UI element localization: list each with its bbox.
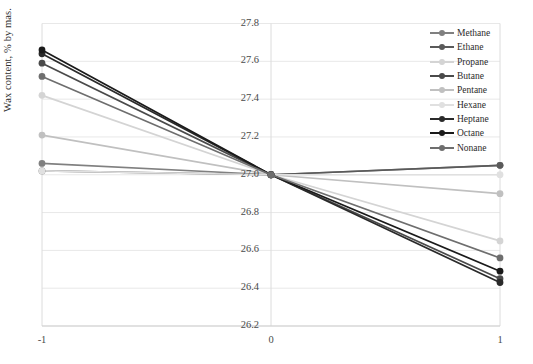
y-tick-label: 26.2 <box>225 319 259 330</box>
x-tick-label: 1 <box>485 334 515 345</box>
legend-swatch-icon <box>430 70 454 82</box>
legend-item-label: Hexane <box>454 100 486 110</box>
y-tick-label: 26.8 <box>225 206 259 217</box>
legend-swatch-icon <box>430 99 454 111</box>
y-tick-label: 27.6 <box>225 54 259 65</box>
x-tick-label: -1 <box>27 334 57 345</box>
y-tick-label: 26.6 <box>225 243 259 254</box>
data-point-heptane <box>497 279 504 286</box>
data-point-hexane <box>497 171 504 178</box>
line-chart: Wax content, % by mas. 27.827.627.427.22… <box>0 0 533 364</box>
legend-item-label: Butane <box>454 71 484 81</box>
legend-item-label: Ethane <box>454 42 483 52</box>
data-point-pentane <box>39 132 46 139</box>
data-point-propane <box>39 92 46 99</box>
legend-item-ethane[interactable]: Ethane <box>430 40 530 54</box>
legend-item-pentane[interactable]: Pentane <box>430 83 530 97</box>
data-point-propane <box>497 238 504 245</box>
legend-swatch-icon <box>430 113 454 125</box>
y-tick-label: 27.0 <box>225 168 259 179</box>
legend-item-nonane[interactable]: Nonane <box>430 140 530 154</box>
legend-item-butane[interactable]: Butane <box>430 69 530 83</box>
data-point-ethane <box>497 162 504 169</box>
legend-item-label: Propane <box>454 57 488 67</box>
data-point-pentane <box>497 190 504 197</box>
legend-item-label: Methane <box>454 28 490 38</box>
data-point-butane <box>39 60 46 67</box>
data-point-hexane <box>39 168 46 175</box>
legend: MethaneEthanePropaneButanePentaneHexaneH… <box>430 26 530 155</box>
legend-swatch-icon <box>430 84 454 96</box>
legend-item-propane[interactable]: Propane <box>430 55 530 69</box>
data-point-nonane <box>497 255 504 262</box>
data-point-octane <box>39 47 46 54</box>
legend-swatch-icon <box>430 56 454 68</box>
x-tick-label: 0 <box>256 334 286 345</box>
legend-item-label: Heptane <box>454 114 489 124</box>
y-tick-label: 27.4 <box>225 92 259 103</box>
legend-item-label: Octane <box>454 128 484 138</box>
data-point-octane <box>497 268 504 275</box>
legend-swatch-icon <box>430 27 454 39</box>
y-tick-label: 26.4 <box>225 281 259 292</box>
y-tick-label: 27.8 <box>225 17 259 28</box>
legend-item-methane[interactable]: Methane <box>430 26 530 40</box>
legend-item-heptane[interactable]: Heptane <box>430 112 530 126</box>
y-tick-label: 27.2 <box>225 130 259 141</box>
data-point-nonane <box>39 73 46 80</box>
legend-swatch-icon <box>430 127 454 139</box>
data-point-nonane <box>268 171 275 178</box>
legend-swatch-icon <box>430 142 454 154</box>
legend-item-hexane[interactable]: Hexane <box>430 97 530 111</box>
data-point-methane <box>39 160 46 167</box>
legend-item-octane[interactable]: Octane <box>430 126 530 140</box>
legend-swatch-icon <box>430 41 454 53</box>
legend-item-label: Pentane <box>454 85 487 95</box>
legend-item-label: Nonane <box>454 143 487 153</box>
